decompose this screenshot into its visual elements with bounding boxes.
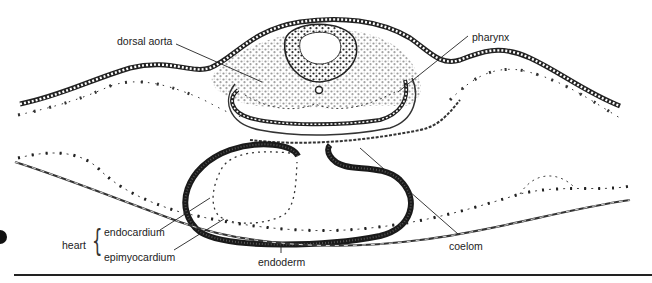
label-endocardium: endocardium [104, 226, 165, 238]
heart-endocardium [213, 152, 297, 223]
label-dorsal-aorta: dorsal aorta [117, 35, 172, 47]
label-pharynx: pharynx [472, 31, 509, 43]
label-epimyocardium: epimyocardium [104, 251, 175, 263]
label-coelom: coelom [449, 240, 483, 252]
notochord [316, 87, 323, 94]
heart-brace: { [92, 226, 103, 256]
label-heart: heart [62, 239, 86, 251]
heart-epimyocardium [185, 144, 411, 244]
page-tab-marker [0, 230, 7, 244]
leader-coelom [360, 148, 458, 234]
label-endoderm: endoderm [258, 256, 305, 268]
